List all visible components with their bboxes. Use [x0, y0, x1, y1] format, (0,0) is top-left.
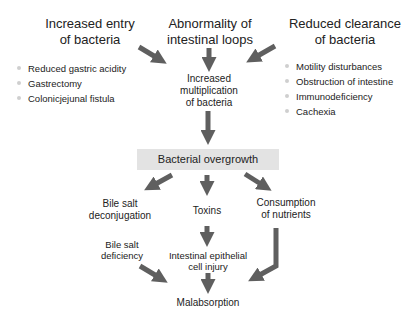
node-line: intestinal loops: [160, 32, 260, 48]
node-line: Intestinal epithelial: [160, 250, 256, 261]
left-causes-list: Reduced gastric acidity Gastrectomy Colo…: [16, 61, 126, 106]
list-item: Gastrectomy: [16, 76, 126, 91]
list-item: Motility disturbances: [284, 59, 393, 74]
node-malabsorption: Malabsorption: [160, 297, 256, 309]
node-bile-salt-deconjugation: Bile salt deconjugation: [80, 198, 160, 222]
node-line: Abnormality of: [160, 16, 260, 32]
arrow-left-to-multiplication: [139, 47, 159, 59]
list-item: Cachexia: [284, 104, 393, 119]
node-line: Increased: [168, 73, 250, 85]
arrow-consumption-to-malabsorption: [256, 228, 276, 277]
node-toxins: Toxins: [180, 205, 234, 217]
node-bile-salt-deficiency: Bile salt deficiency: [92, 239, 152, 262]
node-line: Reduced clearance: [280, 16, 410, 32]
node-line: Bile salt: [92, 239, 152, 250]
node-increased-entry: Increased entry of bacteria: [30, 16, 150, 47]
node-line: of nutrients: [246, 209, 326, 221]
arrow-right-to-multiplication: [254, 46, 275, 58]
node-line: deficiency: [92, 250, 152, 261]
node-line: cell injury: [160, 261, 256, 272]
node-line: Consumption: [246, 197, 326, 209]
right-causes-list: Motility disturbances Obstruction of int…: [284, 59, 393, 119]
node-epithelial-injury: Intestinal epithelial cell injury: [160, 250, 256, 273]
node-line: Bile salt: [80, 198, 160, 210]
node-line: of bacteria: [30, 32, 150, 48]
arrow-bile-deficiency-to-malabsorption: [140, 266, 160, 278]
node-line: Increased entry: [30, 16, 150, 32]
node-reduced-clearance: Reduced clearance of bacteria: [280, 16, 410, 47]
list-item: Reduced gastric acidity: [16, 61, 126, 76]
node-line: of bacteria: [168, 97, 250, 109]
list-item: Colonicjejunal fistula: [16, 91, 126, 106]
node-abnormality-loops: Abnormality of intestinal loops: [160, 16, 260, 47]
list-item: Immunodeficiency: [284, 89, 393, 104]
arrow-overgrowth-to-bile: [152, 175, 172, 186]
node-line: deconjugation: [80, 210, 160, 222]
node-consumption-of-nutrients: Consumption of nutrients: [246, 197, 326, 221]
node-increased-multiplication: Increased multiplication of bacteria: [168, 73, 250, 109]
bacterial-overgrowth-box: Bacterial overgrowth: [137, 149, 279, 170]
node-line: of bacteria: [280, 32, 410, 48]
list-item: Obstruction of intestine: [284, 74, 393, 89]
arrow-overgrowth-to-consumption: [245, 174, 264, 186]
node-line: multiplication: [168, 85, 250, 97]
